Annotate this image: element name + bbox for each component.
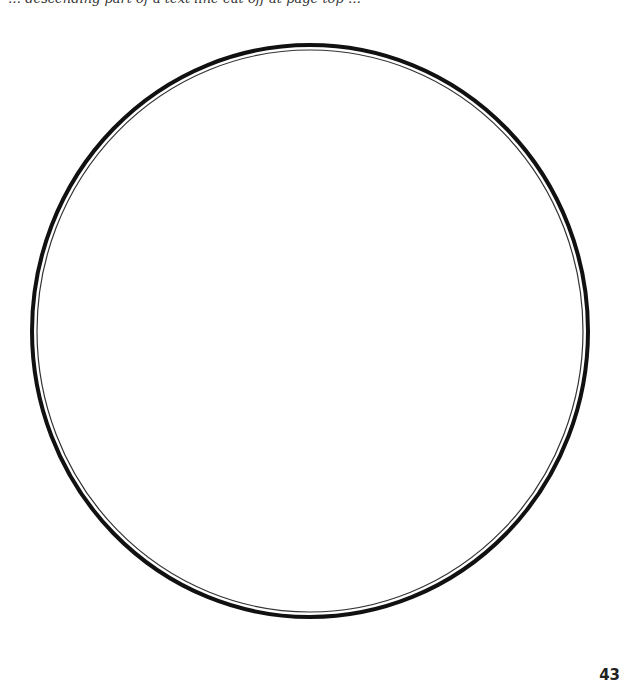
circle-figure <box>0 0 636 696</box>
outer-circle-outline <box>32 45 588 617</box>
page-number: 43 <box>599 666 620 684</box>
